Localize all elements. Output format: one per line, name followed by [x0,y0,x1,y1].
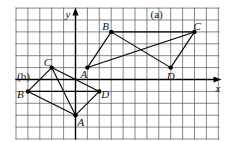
x-axis-label: x [215,83,220,94]
point-label-b-c: C [44,57,51,68]
shape-b-tag: (b) [17,71,30,82]
point-label-b-b: B [17,89,24,100]
shape-a-tag: (a) [150,9,162,20]
point-label-a-a: A [80,69,87,80]
point-label-a-d: D [167,71,175,82]
y-axis-label: y [66,9,71,20]
point-label-a-b: B [102,21,109,32]
point-label-a-c: C [194,21,201,32]
point-label-b-d: D [101,89,109,100]
point-label-b-a: A [78,117,85,128]
